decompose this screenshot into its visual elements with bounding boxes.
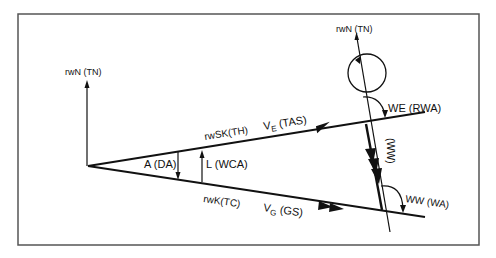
heading-label: rwSK(TH) <box>204 124 249 142</box>
north-arrow-left <box>85 80 90 166</box>
north-label-left: rwN (TN) <box>65 67 102 77</box>
wind-vector-label: (WW) <box>385 138 396 164</box>
wca-label: L (WCA) <box>206 158 248 170</box>
drift-angle-label: A (DA) <box>144 158 176 170</box>
north-label-right: rwN (TN) <box>336 24 373 34</box>
wind-triangle-diagram: rwN (TN) A (DA) L (WCA) rwSK(TH) VE(TAS)… <box>0 0 496 258</box>
rwa-arc <box>363 97 388 118</box>
wa-label: WW (WA) <box>405 193 450 210</box>
wind-direction-circle <box>348 54 386 92</box>
rwa-label: WE (RWA) <box>388 102 441 114</box>
gs-label: VG(GS) <box>262 201 304 221</box>
course-label: rwK(TC) <box>203 193 241 209</box>
wca-indicator <box>200 150 205 182</box>
